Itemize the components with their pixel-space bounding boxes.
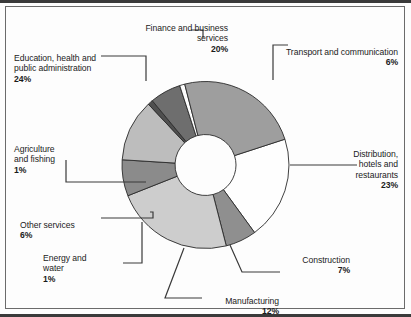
callout-other-services-value: 6% xyxy=(20,230,32,240)
callout-transport-label: Transport and communication xyxy=(286,47,398,57)
callout-energy-label: Energy and water xyxy=(43,253,86,274)
callout-education-value: 24% xyxy=(14,74,31,84)
callout-agriculture-value: 1% xyxy=(14,165,26,175)
callout-education: Education, health and public administrat… xyxy=(14,42,144,84)
callout-construction-value: 7% xyxy=(338,265,350,275)
callout-construction-label: Construction xyxy=(302,255,350,265)
callout-agriculture-label: Agriculture and fishing xyxy=(14,144,55,165)
callout-other-services-label: Other services xyxy=(20,220,75,230)
callout-agriculture: Agriculture and fishing 1% xyxy=(14,133,104,175)
callout-transport: Transport and communication 6% xyxy=(273,36,398,68)
leader-energy xyxy=(123,222,142,263)
callout-distribution-label: Distribution, hotels and restaurants xyxy=(353,149,398,180)
callout-distribution: Distribution, hotels and restaurants 23% xyxy=(300,138,398,191)
callout-finance-value: 20% xyxy=(211,44,228,54)
callout-manufacturing-value: 12% xyxy=(262,306,279,316)
donut-slice[interactable]: Education, health and public administrat… xyxy=(185,81,285,155)
callout-manufacturing-label: Manufacturing xyxy=(225,296,279,306)
callout-energy: Energy and water 1% xyxy=(43,242,125,284)
callout-distribution-value: 23% xyxy=(381,180,398,190)
callout-transport-value: 6% xyxy=(386,57,398,67)
callout-construction: Construction 7% xyxy=(255,244,350,276)
callout-other-services: Other services 6% xyxy=(20,209,120,241)
donut-slices: Finance and business services 20%Transpo… xyxy=(122,81,289,248)
callout-education-label: Education, health and public administrat… xyxy=(14,53,96,74)
pie-chart-figure: Finance and business services 20%Transpo… xyxy=(0,0,411,317)
callout-finance-label: Finance and business services xyxy=(145,23,228,44)
callout-manufacturing: Manufacturing 12% xyxy=(175,285,279,317)
callout-energy-value: 1% xyxy=(43,274,55,284)
